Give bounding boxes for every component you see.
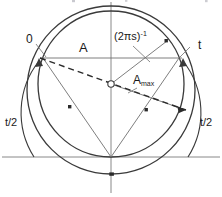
radius-label-leader <box>133 46 150 62</box>
max-area-subscript: max <box>141 80 154 87</box>
max-area-base: A <box>133 73 141 87</box>
top-edge-tick-right <box>205 0 208 2</box>
radial-right-marker <box>145 108 148 111</box>
center-marker <box>108 81 114 87</box>
right-half-period-arc <box>183 61 201 157</box>
label-radius-expression: (2πs)-1 <box>114 30 147 42</box>
t-label-leader <box>180 47 190 57</box>
label-max-area: Amax <box>133 74 154 87</box>
label-area-region: A <box>79 41 88 54</box>
left-half-period-arc <box>21 61 39 157</box>
label-half-period-right: t/2 <box>200 117 212 128</box>
label-end-angle: t <box>198 39 201 51</box>
triangle-right-side <box>111 58 179 157</box>
diagram-canvas <box>0 0 222 197</box>
radial-left-marker <box>68 105 71 108</box>
triangle-left-side <box>43 58 111 157</box>
label-start-angle: 0 <box>26 33 33 45</box>
top-edge-tick-left <box>72 0 75 2</box>
bottom-outer-marker <box>109 172 114 175</box>
top-edge-tick-center <box>125 0 127 2</box>
radius-expression-exponent: -1 <box>141 30 147 37</box>
label-half-period-left: t/2 <box>5 117 17 128</box>
figure-container: 0 t A t/2 t/2 (2πs)-1 Amax <box>0 0 222 197</box>
radius-expression-base: (2πs) <box>114 30 141 42</box>
arc-upper-right-marker <box>165 39 168 42</box>
